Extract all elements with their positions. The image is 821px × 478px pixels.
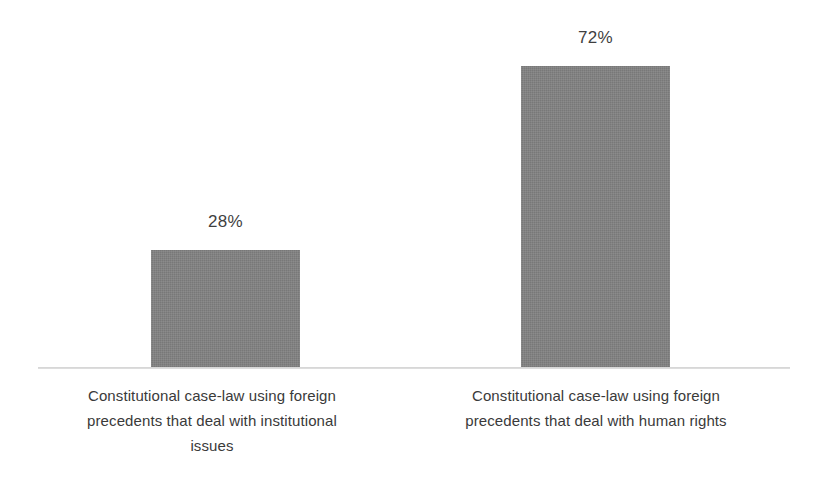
bar-human-rights [521,66,670,368]
category-axis-line [38,367,790,369]
category-label-line: precedents that deal with institutional [26,408,398,433]
category-label-institutional-issues: Constitutional case-law using foreign pr… [26,383,398,458]
category-label-line: Constitutional case-law using foreign [26,383,398,408]
category-label-line: issues [26,433,398,458]
category-label-line: precedents that deal with human rights [410,408,782,433]
value-label-institutional-issues: 28% [151,212,300,232]
category-label-line: Constitutional case-law using foreign [410,383,782,408]
category-label-human-rights: Constitutional case-law using foreign pr… [410,383,782,433]
value-label-human-rights: 72% [521,28,670,48]
bar-chart: 28% 72% Constitutional case-law using fo… [0,0,821,478]
category-axis-labels: Constitutional case-law using foreign pr… [0,383,821,478]
plot-area: 28% 72% [0,0,821,370]
bar-institutional-issues [151,250,300,368]
